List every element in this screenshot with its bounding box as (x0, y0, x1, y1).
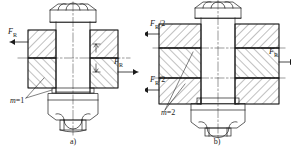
force-label-right-a: FR (114, 57, 123, 68)
force-label-left-a: FR (8, 27, 17, 38)
interface-label-a: m=1 (10, 96, 24, 105)
force-label-right-b: FR (269, 47, 278, 58)
middle-plate-b (159, 48, 279, 78)
panel-a: FR FR m=1 a) (0, 0, 146, 155)
force-arrow-left-upper-b (145, 31, 159, 37)
force-arrow-left-lower-b (145, 87, 159, 93)
force-label-left-upper-b: FR/2 (150, 19, 165, 30)
force-arrow-right-b (279, 59, 291, 65)
caption-b: b) (197, 137, 237, 146)
force-arrow-left-a (10, 39, 28, 45)
upper-plate-b (159, 24, 279, 48)
panel-b: FR/2 FR/2 FR m=2 b) (145, 0, 291, 155)
panel-b-drawing (145, 0, 291, 140)
interface-label-b: m=2 (161, 108, 175, 117)
force-arrow-right-a (118, 69, 138, 75)
lower-plate-b (159, 78, 279, 104)
figure-canvas: FR FR m=1 a) (0, 0, 291, 155)
caption-a: a) (53, 137, 93, 146)
panel-a-drawing (0, 0, 146, 140)
force-label-left-lower-b: FR/2 (150, 75, 165, 86)
